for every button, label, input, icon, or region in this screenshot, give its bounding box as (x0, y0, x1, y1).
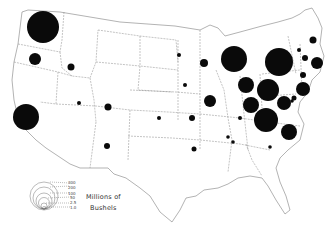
symbol-indiana (238, 77, 254, 93)
us-map (0, 0, 334, 230)
production-symbols (13, 11, 323, 152)
symbol-missouri (189, 115, 195, 121)
symbol-oregon (29, 53, 41, 65)
symbol-new-jersey (277, 96, 291, 110)
symbol-kentucky (238, 116, 242, 120)
legend-circle-200 (33, 187, 55, 209)
symbol-new-hampshire (297, 48, 301, 52)
legend-value-200: 200 (68, 186, 76, 190)
legend-circles (30, 182, 70, 210)
symbol-new-mexico (104, 143, 110, 149)
symbol-new-york (265, 48, 293, 76)
symbol-west-virginia-virginia (254, 108, 278, 132)
symbol-illinois (204, 95, 216, 107)
us-outline (12, 8, 324, 222)
symbol-wisconsin-michigan (221, 46, 247, 72)
symbol-maine (290, 99, 294, 103)
legend-circle-300 (30, 182, 58, 210)
symbol-colorado (105, 104, 112, 111)
legend-value-1-0: 1.0 (70, 206, 76, 210)
symbol-tennessee (226, 135, 230, 139)
symbol-california (13, 104, 39, 130)
state-outlines (12, 8, 324, 222)
legend-circle-2.5 (41, 203, 47, 209)
symbol-pennsylvania (257, 79, 279, 101)
symbol-minnesota (200, 59, 208, 67)
symbol-kansas (157, 116, 161, 120)
symbol-north-dakota (177, 53, 181, 57)
symbol-tennessee-2 (231, 140, 235, 144)
symbol-arkansas (192, 147, 197, 152)
symbol-massachusetts (302, 55, 308, 61)
symbol-nevada-utah (77, 101, 81, 105)
symbol-iowa (183, 83, 187, 87)
symbol-north-carolina (281, 124, 297, 140)
legend-unit-line2: Bushels (90, 204, 117, 212)
symbol-delaware (296, 82, 310, 96)
symbol-ohio (243, 97, 259, 113)
symbol-vermont (310, 37, 317, 44)
symbol-idaho (68, 64, 75, 71)
symbol-south-carolina (268, 145, 272, 149)
legend-unit-line1: Millions of (86, 193, 121, 201)
symbol-connecticut (311, 57, 323, 69)
symbol-rhode-island (300, 72, 306, 78)
symbol-washington (27, 11, 59, 43)
